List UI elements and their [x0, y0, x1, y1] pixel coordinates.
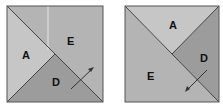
left-label-a: A [22, 49, 30, 61]
left-label-d: D [52, 76, 60, 88]
left-label-e: E [67, 35, 74, 47]
tangram-diagram: A E D A D E [0, 0, 223, 112]
right-label-d: D [200, 52, 208, 64]
right-label-e: E [147, 70, 154, 82]
right-label-a: A [169, 19, 177, 31]
right-square: A D E [125, 6, 219, 102]
left-square: A E D [7, 6, 103, 102]
